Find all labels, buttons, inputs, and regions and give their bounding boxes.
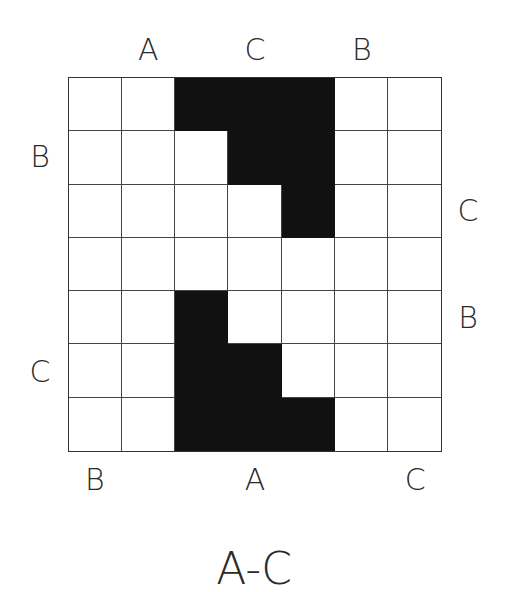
grid-cell-filled[interactable] — [175, 78, 228, 131]
grid-cell-filled[interactable] — [175, 398, 228, 451]
grid-cell-empty[interactable] — [388, 398, 441, 451]
grid-cell-empty[interactable] — [69, 344, 122, 397]
clue-bottom: B — [85, 465, 105, 495]
grid-cell-filled[interactable] — [175, 291, 228, 344]
clue-top: A — [138, 35, 159, 65]
grid-cell-empty[interactable] — [335, 291, 388, 344]
clue-right: C — [458, 196, 479, 226]
grid-cell-filled[interactable] — [282, 398, 335, 451]
clue-left: B — [30, 142, 50, 172]
grid-cell-empty[interactable] — [69, 398, 122, 451]
clue-left: C — [30, 357, 51, 387]
grid-cell-empty[interactable] — [69, 131, 122, 184]
grid-cell-empty[interactable] — [282, 344, 335, 397]
grid-cell-empty[interactable] — [335, 238, 388, 291]
grid-cell-filled[interactable] — [175, 344, 228, 397]
grid-cell-empty[interactable] — [282, 238, 335, 291]
grid-cell-empty[interactable] — [388, 131, 441, 184]
puzzle-grid — [68, 77, 442, 452]
grid-cell-filled[interactable] — [228, 78, 281, 131]
grid-cell-empty[interactable] — [388, 238, 441, 291]
grid-cell-empty[interactable] — [388, 291, 441, 344]
puzzle-title: A-C — [216, 543, 292, 592]
grid-cell-empty[interactable] — [122, 344, 175, 397]
grid-cell-filled[interactable] — [282, 185, 335, 238]
clue-top: C — [245, 35, 266, 65]
grid-cell-filled[interactable] — [282, 131, 335, 184]
grid-cell-empty[interactable] — [228, 291, 281, 344]
grid-cell-filled[interactable] — [228, 344, 281, 397]
grid-cell-filled[interactable] — [228, 398, 281, 451]
grid-cell-empty[interactable] — [175, 185, 228, 238]
grid-cell-empty[interactable] — [122, 398, 175, 451]
grid-cell-filled[interactable] — [228, 131, 281, 184]
grid-cell-empty[interactable] — [388, 185, 441, 238]
clue-bottom: A — [245, 465, 266, 495]
grid-cell-empty[interactable] — [69, 185, 122, 238]
grid-cell-empty[interactable] — [122, 238, 175, 291]
clue-bottom: C — [405, 465, 426, 495]
grid-cell-empty[interactable] — [175, 131, 228, 184]
grid-cell-empty[interactable] — [122, 131, 175, 184]
clue-right: B — [458, 303, 478, 333]
grid-cell-empty[interactable] — [388, 78, 441, 131]
grid-cell-empty[interactable] — [175, 238, 228, 291]
grid-cell-empty[interactable] — [335, 344, 388, 397]
grid-cell-empty[interactable] — [69, 78, 122, 131]
grid-cell-empty[interactable] — [335, 398, 388, 451]
grid-cell-empty[interactable] — [228, 238, 281, 291]
grid-cell-empty[interactable] — [335, 185, 388, 238]
grid-cell-empty[interactable] — [228, 185, 281, 238]
grid-cell-empty[interactable] — [69, 291, 122, 344]
clue-top: B — [352, 35, 372, 65]
grid-cell-empty[interactable] — [282, 291, 335, 344]
grid-cell-empty[interactable] — [335, 78, 388, 131]
grid-cell-filled[interactable] — [282, 78, 335, 131]
grid-cell-empty[interactable] — [122, 78, 175, 131]
grid-cell-empty[interactable] — [69, 238, 122, 291]
grid-cell-empty[interactable] — [388, 344, 441, 397]
grid-cell-empty[interactable] — [122, 185, 175, 238]
grid-cell-empty[interactable] — [122, 291, 175, 344]
grid-cell-empty[interactable] — [335, 131, 388, 184]
